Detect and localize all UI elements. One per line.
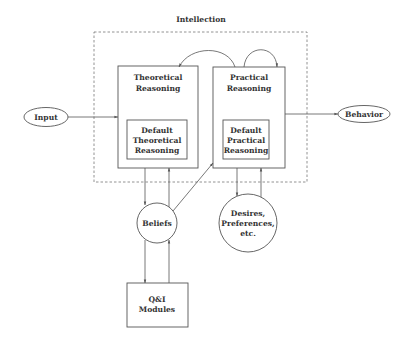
svg-text:Reasoning: Reasoning bbox=[227, 84, 272, 93]
qi-modules-node: Q&I Modules bbox=[127, 283, 188, 327]
edge-beliefs-to-practical bbox=[173, 163, 213, 211]
svg-text:Behavior: Behavior bbox=[345, 110, 384, 119]
input-node: Input bbox=[24, 108, 68, 127]
svg-text:Q&I: Q&I bbox=[148, 295, 165, 304]
default-theoretical-reasoning-node: Default Theoretical Reasoning bbox=[127, 120, 187, 159]
svg-text:Reasoning: Reasoning bbox=[136, 84, 181, 93]
svg-text:Default: Default bbox=[141, 126, 173, 135]
svg-text:Desires,: Desires, bbox=[231, 209, 265, 218]
desires-preferences-node: Desires, Preferences, etc. bbox=[219, 194, 277, 252]
edge-practical-to-theoretical bbox=[179, 51, 235, 68]
svg-text:Default: Default bbox=[230, 126, 262, 135]
svg-text:Reasoning: Reasoning bbox=[224, 146, 269, 155]
edges bbox=[68, 50, 338, 283]
behavior-node: Behavior bbox=[338, 106, 390, 123]
svg-text:Theoretical: Theoretical bbox=[133, 136, 182, 145]
architecture-diagram: Intellection Theoretical Reasoning Defau… bbox=[0, 0, 408, 348]
svg-text:Reasoning: Reasoning bbox=[135, 146, 180, 155]
beliefs-node: Beliefs bbox=[137, 203, 177, 243]
svg-text:Input: Input bbox=[34, 113, 58, 122]
edge-practical-self-loop bbox=[244, 50, 277, 67]
intellection-label: Intellection bbox=[176, 15, 226, 24]
svg-text:etc.: etc. bbox=[240, 229, 256, 238]
svg-text:Practical: Practical bbox=[227, 136, 265, 145]
svg-text:Theoretical: Theoretical bbox=[134, 73, 183, 82]
svg-text:Practical: Practical bbox=[230, 73, 268, 82]
svg-text:Beliefs: Beliefs bbox=[142, 219, 171, 228]
default-practical-reasoning-node: Default Practical Reasoning bbox=[223, 120, 269, 159]
svg-text:Modules: Modules bbox=[139, 305, 175, 314]
svg-text:Preferences,: Preferences, bbox=[221, 219, 274, 228]
